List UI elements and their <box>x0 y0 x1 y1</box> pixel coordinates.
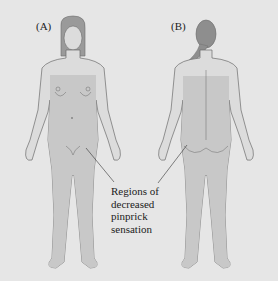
callout-line: Regions of <box>111 185 159 198</box>
back-body-figure <box>159 20 254 268</box>
panel-label-a: (A) <box>36 20 51 32</box>
panel-label-b: (B) <box>171 20 186 32</box>
callout-label: Regions of decreased pinprick sensation <box>111 185 159 235</box>
body-diagram <box>0 0 278 281</box>
callout-line: pinprick <box>111 210 159 223</box>
callout-line: sensation <box>111 223 159 236</box>
callout-line: decreased <box>111 198 159 211</box>
front-body-figure <box>26 16 121 268</box>
